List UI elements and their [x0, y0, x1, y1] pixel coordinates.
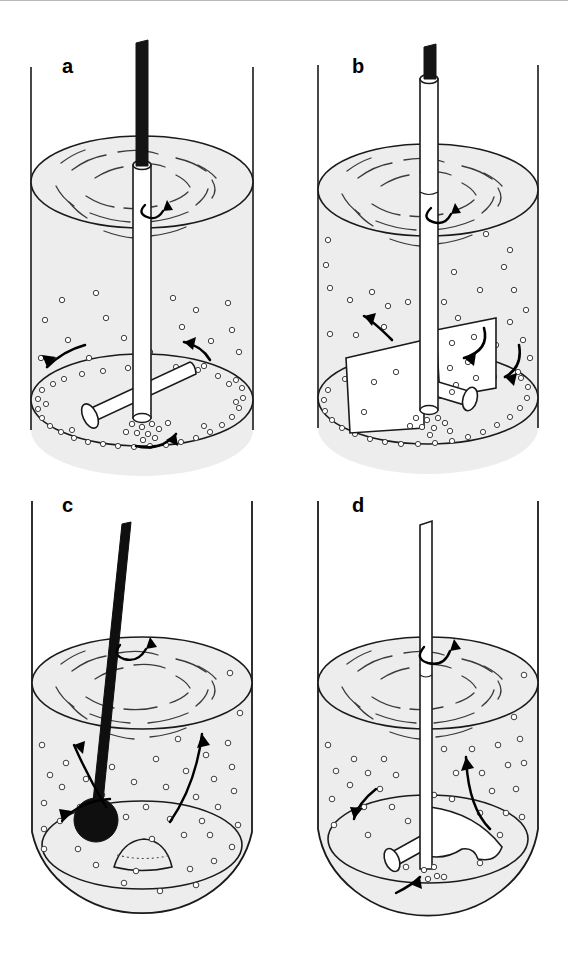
stirrer-ball-c: [74, 798, 118, 842]
figure-root: a: [0, 0, 568, 955]
shaft-sleeve-b: [420, 75, 438, 415]
panel-b: [284, 0, 568, 478]
panel-label-d: d: [352, 495, 364, 515]
panel-d: [284, 477, 568, 955]
shaft-d: [420, 521, 432, 869]
panel-label-b: b: [352, 56, 364, 76]
shaft-sleeve-a: [133, 161, 151, 423]
panel-label-c: c: [62, 495, 73, 515]
panel-label-a: a: [62, 56, 73, 76]
panel-c: [0, 477, 284, 955]
liquid-surface-c: [32, 637, 252, 729]
panel-a: [0, 0, 284, 478]
drive-rod-a: [136, 40, 148, 166]
drive-rod-b: [424, 44, 436, 79]
